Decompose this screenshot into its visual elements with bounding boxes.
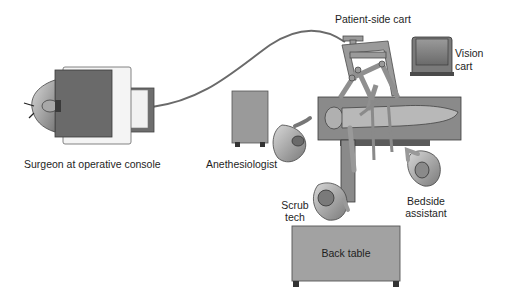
label-vision-cart-line1: Vision	[455, 47, 483, 59]
label-surgeon-console: Surgeon at operative console	[24, 158, 161, 170]
label-scrub-tech-line2: tech	[280, 211, 310, 223]
anesthesiologist-figure	[273, 118, 310, 162]
label-back-table: Back table	[292, 247, 400, 259]
anesthesia-cart	[232, 91, 268, 147]
bedside-assistant-figure	[407, 150, 440, 186]
or-layout-diagram	[0, 0, 506, 301]
vision-cart	[410, 37, 454, 76]
label-bedside-assistant-line1: Bedside	[400, 195, 452, 207]
surgeon-console	[55, 67, 154, 144]
label-scrub-tech-line1: Scrub	[280, 199, 310, 211]
label-patient-side-cart: Patient-side cart	[335, 13, 411, 25]
label-vision-cart-line2: cart	[455, 60, 473, 72]
label-bedside-assistant-line2: assistant	[400, 207, 452, 219]
label-anesthesiologist: Anethesiologist	[206, 158, 277, 170]
